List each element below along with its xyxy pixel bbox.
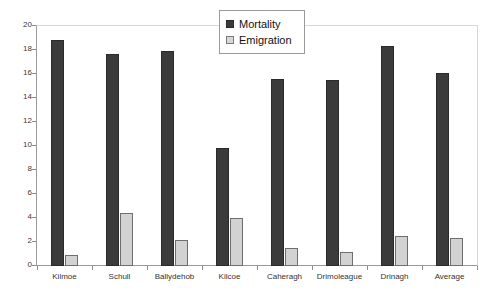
x-axis-tick-mark [202,266,203,270]
x-axis-tick-mark [37,266,38,270]
bars-layer [37,26,477,266]
x-axis-tick-mark [422,266,423,270]
x-axis-tick-label: Drimoleague [312,272,367,292]
x-axis-labels: KilmoeSchullBallydehobKilcoeCaheraghDrim… [37,272,477,292]
x-axis-tick-mark [477,266,478,270]
x-axis-tick-mark [367,266,368,270]
bar-group [37,26,92,266]
bar-emigration [395,236,408,266]
bar-mortality [216,148,229,266]
x-axis-tick-label: Schull [92,272,147,292]
legend-item-label: Mortality [239,18,281,30]
bar-emigration [65,255,78,266]
bar-emigration [285,248,298,266]
legend: Mortality Emigration [219,10,305,54]
legend-item-emigration: Emigration [226,32,292,48]
bar-mortality [271,79,284,266]
x-axis-tick-label: Ballydehob [147,272,202,292]
x-axis-tick-label: Kilmoe [37,272,92,292]
x-axis-tick-label: Drinagh [367,272,422,292]
bar-group [367,26,422,266]
x-axis-tick-mark [257,266,258,270]
x-axis-tick-label: Caheragh [257,272,312,292]
x-axis-tick-label: Average [422,272,477,292]
bar-emigration [450,238,463,266]
legend-item-label: Emigration [239,34,292,46]
bar-mortality [161,51,174,266]
bar-group [202,26,257,266]
filled-light-square-icon [226,36,234,44]
bar-group [422,26,477,266]
bar-group [312,26,367,266]
bar-group [147,26,202,266]
bar-group [257,26,312,266]
bar-mortality [436,73,449,266]
bar-emigration [175,240,188,266]
x-axis-tick-label: Kilcoe [202,272,257,292]
bar-mortality [51,40,64,266]
bar-chart: 20181614121086420 KilmoeSchullBallydehob… [0,0,502,294]
bar-group [92,26,147,266]
x-axis-tick-mark [92,266,93,270]
x-axis-tick-mark [312,266,313,270]
y-axis: 20181614121086420 [0,25,36,266]
bar-mortality [106,54,119,266]
bar-mortality [326,80,339,266]
x-axis-tick-mark [147,266,148,270]
legend-item-mortality: Mortality [226,16,292,32]
bar-mortality [381,46,394,266]
filled-dark-square-icon [226,20,234,28]
bar-emigration [120,213,133,266]
x-axis [37,266,477,271]
bar-emigration [340,252,353,266]
bar-emigration [230,218,243,266]
